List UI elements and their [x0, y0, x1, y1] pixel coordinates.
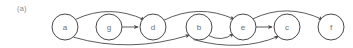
node-g-label: g: [107, 23, 111, 32]
node-b[interactable]: b: [186, 14, 212, 40]
node-b-label: b: [197, 23, 202, 32]
edge-b-to-e: [209, 34, 234, 39]
node-c[interactable]: c: [274, 14, 300, 40]
node-e[interactable]: e: [230, 14, 256, 40]
node-e-label: e: [241, 23, 246, 32]
node-c-label: c: [285, 23, 289, 32]
node-a[interactable]: a: [52, 14, 78, 40]
directed-graph: a g d b e c f: [0, 0, 353, 48]
edge-a-to-b: [74, 35, 190, 45]
node-d[interactable]: d: [140, 14, 166, 40]
figure-panel: (a) a g: [0, 0, 353, 48]
node-layer: a g d b e c f: [52, 14, 344, 40]
node-f[interactable]: f: [318, 14, 344, 40]
node-g[interactable]: g: [96, 14, 122, 40]
node-d-label: d: [151, 23, 155, 32]
node-a-label: a: [63, 23, 68, 32]
